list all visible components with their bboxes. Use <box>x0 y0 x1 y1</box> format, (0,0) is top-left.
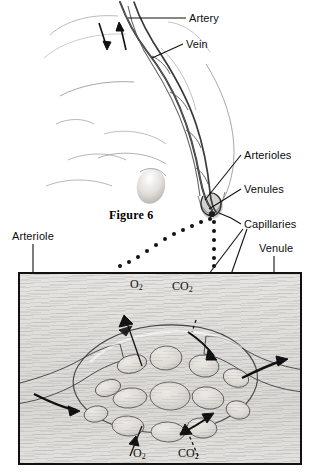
oxygen-bottom-subscript: 2 <box>142 452 146 461</box>
oxygen-top-symbol: O <box>130 277 139 291</box>
leader-vein <box>152 44 183 58</box>
dotted-leader-vertical <box>212 220 216 268</box>
oxygen-bottom-symbol: O <box>133 446 142 460</box>
carbon-dioxide-bottom-symbol: CO <box>178 446 195 460</box>
middle-finger <box>150 11 250 106</box>
leader-arterioles <box>205 155 241 200</box>
oxygen-top-subscript: 2 <box>139 283 143 292</box>
leader-capillaries <box>219 213 241 224</box>
label-capillaries: Capillaries <box>244 219 296 230</box>
label-arteriole: Arteriole <box>12 231 54 242</box>
label-venule: Venule <box>259 243 293 254</box>
carbon-dioxide-top-subscript: 2 <box>189 285 193 294</box>
label-venules: Venules <box>244 184 284 195</box>
capillary-bed-panel <box>18 272 302 465</box>
label-carbon-dioxide-top: CO2 <box>172 279 193 294</box>
label-vein: Vein <box>186 39 208 50</box>
flow-arrows-hand <box>99 22 126 50</box>
dotted-leader-diagonal <box>118 217 212 268</box>
carbon-dioxide-top-symbol: CO <box>172 279 189 293</box>
folded-fingers <box>28 100 196 222</box>
label-oxygen-bottom: O2 <box>133 446 146 461</box>
label-arterioles: Arterioles <box>244 150 291 161</box>
figure-root: Artery Vein Arterioles Venules Capillari… <box>0 0 318 475</box>
capillary-bed-drawing <box>20 274 300 463</box>
figure-caption: Figure 6 <box>109 208 153 223</box>
artery-vessel <box>120 2 212 210</box>
hand-back <box>35 9 214 112</box>
capillary-mesh-openings <box>83 345 252 443</box>
label-artery: Artery <box>189 13 219 24</box>
dotted-leaders <box>118 217 216 268</box>
finger-vessels <box>120 2 221 217</box>
label-carbon-dioxide-bottom: CO2 <box>178 446 199 461</box>
label-oxygen-top: O2 <box>130 277 143 292</box>
carbon-dioxide-bottom-subscript: 2 <box>195 452 199 461</box>
